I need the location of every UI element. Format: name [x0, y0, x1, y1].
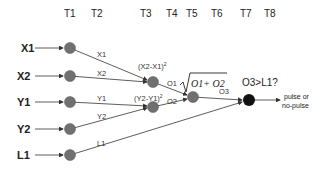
time-step-t5: T5: [186, 8, 198, 19]
time-step-t2: T2: [91, 8, 103, 19]
time-step-t6: T6: [211, 8, 223, 19]
neural-timing-diagram: T1 T2 T3 T4 T5 T6 T7 T8 X1 X2 Y1 Y2 L1 X…: [0, 0, 327, 174]
time-step-t1: T1: [64, 8, 76, 19]
time-step-t4: T4: [166, 8, 178, 19]
edge-y2-o2: [70, 108, 147, 129]
edge-label-o2: O2: [167, 97, 177, 106]
time-step-t7: T7: [240, 8, 252, 19]
node-y2: [65, 124, 76, 135]
edge-x1-o1: [70, 48, 147, 80]
formula-sqrt: O1+ O2: [191, 78, 225, 89]
edge-label-y1: Y1: [97, 94, 106, 103]
node-o1: [148, 77, 159, 88]
node-x2: [65, 71, 76, 82]
input-label-x1: X1: [21, 42, 34, 54]
node-o3: [188, 92, 199, 103]
edge-x2-o1: [70, 76, 147, 82]
edge-o3-output: [193, 97, 242, 100]
edge-label-x2: X2: [97, 69, 106, 78]
input-label-y2: Y2: [17, 123, 30, 135]
edge-label-y2: Y2: [97, 112, 106, 121]
input-label-y1: Y1: [17, 96, 30, 108]
output-label-line2: no-pulse: [282, 102, 309, 110]
node-x1: [65, 43, 76, 54]
formula-dx: (X2-X1)2: [138, 61, 167, 71]
node-l1: [65, 150, 76, 161]
time-step-t3: T3: [140, 8, 152, 19]
formula-dy: (Y2-Y1)2: [134, 93, 163, 103]
input-label-l1: L1: [17, 149, 30, 161]
time-step-t8: T8: [264, 8, 276, 19]
edge-label-o1: O1: [167, 79, 177, 88]
node-output: [243, 94, 255, 106]
decision-label: O3>L1?: [242, 77, 278, 88]
node-o2: [148, 102, 159, 113]
output-label-line1: pulse or: [284, 93, 310, 101]
edge-label-l1: L1: [97, 139, 105, 148]
input-label-x2: X2: [17, 70, 30, 82]
node-y1: [65, 97, 76, 108]
edge-label-x1: X1: [97, 50, 106, 59]
